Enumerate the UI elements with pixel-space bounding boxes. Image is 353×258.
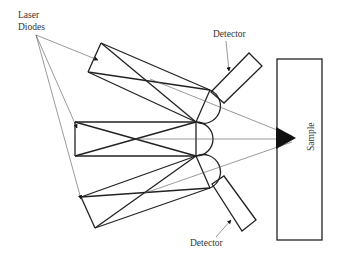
detector-bottom-label: Detector (190, 238, 224, 248)
laser-module-middle (75, 122, 292, 156)
focal-spot-marker (276, 127, 296, 149)
detector-bottom: Detector (190, 176, 256, 248)
laser-diodes-label-line2: Diodes (18, 22, 45, 32)
detector-top: Detector (211, 29, 262, 103)
laser-module-bottom (81, 142, 292, 228)
sample-label: Sample (306, 123, 316, 152)
laser-diode-pointer-arrows (36, 35, 98, 199)
laser-diode-diagram: Laser Diodes (0, 0, 353, 258)
sample-box: Sample (276, 59, 322, 240)
laser-diodes-label-line1: Laser (18, 10, 40, 20)
detector-top-label: Detector (213, 29, 247, 39)
